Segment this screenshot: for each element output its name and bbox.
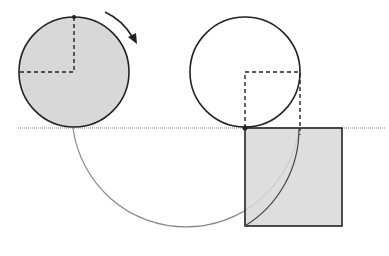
left-top-dot <box>72 15 76 19</box>
arrowhead-icon <box>128 33 137 44</box>
rolling-circle-diagram <box>0 0 389 256</box>
tangent-point-dot <box>243 126 248 131</box>
shaded-square <box>245 128 342 226</box>
